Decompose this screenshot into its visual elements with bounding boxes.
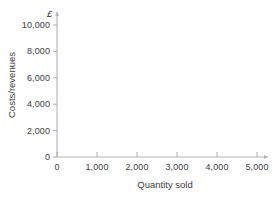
y-axis-ticks <box>53 25 57 157</box>
currency-unit-label: £ <box>47 8 52 19</box>
x-axis-title: Quantity sold <box>137 179 192 190</box>
x-tick-label: 2,000 <box>125 162 148 172</box>
y-tick-label: 0 <box>8 152 50 162</box>
x-axis-ticks <box>57 152 257 157</box>
y-tick-label: 2,000 <box>8 126 50 136</box>
x-tick-label: 5,000 <box>245 162 268 172</box>
x-tick-label: 3,000 <box>165 162 188 172</box>
x-tick-label: 1,000 <box>85 162 108 172</box>
x-tick-label: 4,000 <box>205 162 228 172</box>
x-tick-label: 0 <box>54 162 59 172</box>
y-tick-label: 10,000 <box>8 20 50 30</box>
y-axis-title: Costs/revenues <box>6 52 17 118</box>
chart-figure: £ 10,000 8,000 6,000 4,000 2,000 0 0 1,0… <box>0 0 280 198</box>
